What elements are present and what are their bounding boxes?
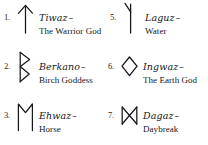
entry-number: 1. — [4, 2, 15, 22]
rune-meaning: Daybreak — [143, 123, 179, 135]
entry-number: 3. — [4, 100, 15, 120]
rune-meaning: The Earth God — [143, 74, 197, 86]
entry-number: 6. — [108, 51, 119, 71]
name-dash: – — [80, 62, 86, 72]
rune-entry-berkano: 2. Berkano– Birch Goddess — [4, 51, 93, 86]
rune-name: Laguz– — [145, 12, 180, 23]
rune-name: Ehwaz– — [39, 110, 77, 121]
rune-entry-ehwaz: 3. Ehwaz– Horse — [4, 100, 77, 135]
rune-meaning: The Warrior God — [39, 25, 101, 37]
name-dash: – — [174, 111, 180, 121]
rune-meaning: Water — [145, 25, 180, 37]
rune-label-group: Dagaz– Daybreak — [140, 100, 179, 135]
entry-number: 7. — [108, 100, 119, 120]
rune-entry-dagaz: 7. Dagaz– Daybreak — [108, 100, 179, 135]
ehwaz-rune-icon — [15, 100, 36, 132]
name-dash: – — [178, 62, 184, 72]
berkano-rune-icon — [15, 51, 36, 83]
entry-number: 2. — [4, 51, 15, 71]
rune-label-group: Tiwaz– The Warrior God — [36, 2, 101, 37]
rune-name: Berkano– — [39, 61, 86, 72]
rune-reference-list: 1. Tiwaz– The Warrior God 2. — [0, 0, 208, 145]
rune-name: Dagaz– — [143, 110, 179, 121]
rune-entry-laguz: 5. Laguz– Water — [110, 2, 180, 37]
rune-label-group: Ingwaz– The Earth God — [140, 51, 197, 86]
rune-meaning: Horse — [39, 123, 77, 135]
entry-number: 5. — [110, 2, 121, 22]
laguz-rune-icon — [121, 2, 142, 34]
tiwaz-rune-icon — [15, 2, 36, 34]
rune-entry-tiwaz: 1. Tiwaz– The Warrior God — [4, 2, 101, 37]
rune-name: Tiwaz– — [39, 12, 73, 23]
name-dash: – — [71, 111, 77, 121]
rune-label-group: Berkano– Birch Goddess — [36, 51, 93, 86]
dagaz-rune-icon — [119, 100, 140, 132]
rune-meaning: Birch Goddess — [39, 74, 93, 86]
rune-label-group: Ehwaz– Horse — [36, 100, 77, 135]
ingwaz-rune-icon — [119, 51, 140, 83]
name-dash: – — [175, 13, 181, 23]
rune-name: Ingwaz– — [143, 61, 184, 72]
rune-label-group: Laguz– Water — [142, 2, 180, 37]
name-dash: – — [68, 13, 74, 23]
rune-entry-ingwaz: 6. Ingwaz– The Earth God — [108, 51, 197, 86]
